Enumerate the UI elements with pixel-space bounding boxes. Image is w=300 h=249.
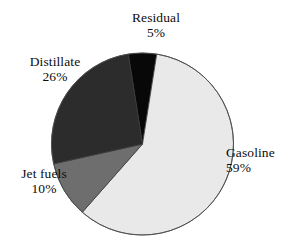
pie-label-gasoline-name: Gasoline — [226, 145, 300, 160]
pie-label-gasoline-value: 59% — [226, 160, 300, 175]
pie-label-residual-name: Residual — [108, 10, 204, 25]
pie-label-distillate-name: Distillate — [6, 54, 104, 69]
pie-label-jet-fuels: Jet fuels 10% — [0, 166, 90, 196]
pie-label-residual-value: 5% — [108, 25, 204, 40]
pie-chart-figure: Residual 5% Distillate 26% Jet fuels 10%… — [0, 0, 300, 249]
pie-label-distillate: Distillate 26% — [6, 54, 104, 84]
pie-label-distillate-value: 26% — [6, 69, 104, 84]
pie-label-jet-fuels-name: Jet fuels — [0, 166, 90, 181]
pie-label-residual: Residual 5% — [108, 10, 204, 40]
pie-label-gasoline: Gasoline 59% — [226, 145, 300, 175]
pie-label-jet-fuels-value: 10% — [0, 181, 90, 196]
